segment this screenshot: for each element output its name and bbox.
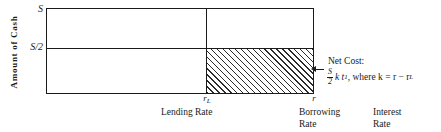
formula-tail-subscript: L [409, 73, 413, 81]
top-boundary-line-s [46, 8, 314, 9]
caption-interest-rate-line1: Interest [373, 106, 402, 118]
caption-borrowing-rate-line1: Borrowing [299, 106, 340, 118]
fraction-denominator: 2 [327, 78, 333, 86]
caption-interest-rate: Interest Rate [373, 106, 402, 130]
net-cost-annotation-title: Net Cost: [328, 56, 364, 66]
net-cost-annotation-formula: S 2 k t1, where k = r − rL [327, 68, 413, 86]
formula-kt-term: k t [335, 72, 344, 82]
caption-lending-rate: Lending Rate [161, 106, 212, 118]
y-tick-label-s-half: S/2 [4, 41, 43, 52]
x-tick-label-lending-rate: rL [192, 93, 222, 105]
y-axis-line [46, 8, 47, 94]
fraction-numerator: S [327, 68, 333, 76]
fraction-s-over-2: S 2 [327, 68, 333, 86]
net-cost-hatched-region [207, 49, 313, 93]
formula-tail-text: , where k = r − r [348, 72, 410, 82]
net-cost-interest-rate-figure: Amount of Cash S S/2 rL r Net Cost: S 2 … [0, 0, 441, 132]
caption-borrowing-rate: Borrowing Rate [299, 106, 340, 130]
caption-borrowing-rate-line2: Rate [299, 118, 340, 130]
x-tick-label-rl-subscript: L [207, 97, 211, 105]
net-cost-callout-arrow-icon [315, 69, 324, 70]
y-axis-label: Amount of Cash [9, 7, 19, 97]
x-tick-label-borrowing-rate: r [299, 93, 329, 103]
caption-interest-rate-line2: Rate [373, 118, 402, 130]
y-tick-label-s: S [10, 3, 43, 14]
caption-lending-rate-line1: Lending Rate [161, 106, 212, 118]
